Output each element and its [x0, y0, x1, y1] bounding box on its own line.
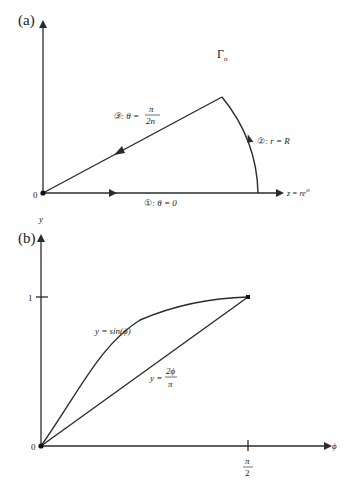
origin-point	[40, 190, 45, 195]
panel-b-chart: (b) y 1 π 2 ϕ 0 y = sin(ϕ) y = 2ϕ π	[18, 214, 337, 478]
linear-curve-label: y = 2ϕ π	[149, 366, 177, 389]
svg-text:π: π	[168, 379, 173, 389]
path-3-label: ③: θ = π 2n	[113, 104, 160, 126]
x-axis-label: ϕ	[332, 441, 337, 451]
x-tick-den: 2	[245, 468, 250, 478]
svg-text:2n: 2n	[146, 116, 156, 126]
path-1-label: ①: θ = 0	[144, 198, 177, 208]
path-1-direction-arrow-icon	[109, 189, 117, 197]
svg-text:π: π	[149, 104, 154, 114]
arc-path-2	[222, 97, 258, 193]
region-label: Γn	[217, 47, 228, 63]
svg-text:③: θ =: ③: θ =	[113, 111, 139, 121]
panel-a-label: (a)	[18, 12, 35, 29]
sin-curve-label: y = sin(ϕ)	[94, 326, 131, 336]
linear-curve	[41, 297, 248, 446]
origin-label-b: 0	[31, 442, 36, 452]
svg-text:2ϕ: 2ϕ	[166, 366, 176, 376]
x-tick-num: π	[245, 456, 250, 466]
panel-b-label: (b)	[18, 230, 36, 247]
y-tick-label: 1	[28, 293, 33, 303]
svg-text:y =: y =	[149, 373, 162, 383]
path-3-direction-arrow-icon	[114, 146, 125, 155]
origin-point-b	[38, 443, 43, 448]
figure: (a) 0 Γn ①: θ = 0 ②: r = R ③: θ =	[0, 0, 352, 490]
endpoint-marker	[246, 295, 250, 299]
panel-a-contour: (a) 0 Γn ①: θ = 0 ②: r = R ③: θ =	[18, 12, 310, 208]
path-2-label: ②: r = R	[257, 136, 290, 146]
axis-label-z: z = reiθ	[286, 188, 310, 198]
y-axis-label: y	[38, 214, 43, 224]
origin-label-a: 0	[33, 190, 38, 200]
